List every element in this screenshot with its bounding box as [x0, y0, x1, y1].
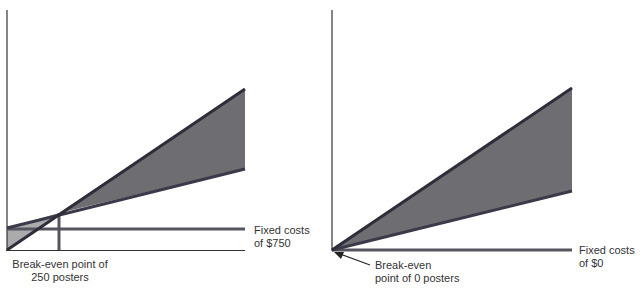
- break-even-label-line1: Break-even point of: [10, 258, 110, 271]
- left-chart: [6, 10, 245, 251]
- break-even-label-line2: 250 posters: [10, 271, 110, 284]
- charts-canvas: [0, 0, 644, 290]
- right-fixed-cost-label: Fixed costs of $0: [579, 244, 635, 270]
- right-break-even-label: Break-even point of 0 posters: [375, 259, 459, 285]
- right-chart: [332, 10, 572, 265]
- break-even-label-line2: point of 0 posters: [375, 272, 459, 285]
- fixed-cost-label-line2: of $750: [254, 237, 310, 250]
- break-even-arrow: [340, 254, 370, 265]
- left-break-even-label: Break-even point of 250 posters: [10, 258, 110, 284]
- left-fixed-cost-label: Fixed costs of $750: [254, 224, 310, 250]
- fixed-cost-label-line2: of $0: [579, 257, 635, 270]
- fixed-cost-label-line1: Fixed costs: [254, 224, 310, 237]
- break-even-label-line1: Break-even: [375, 259, 459, 272]
- arrow-head-icon: [334, 252, 344, 259]
- fixed-cost-label-line1: Fixed costs: [579, 244, 635, 257]
